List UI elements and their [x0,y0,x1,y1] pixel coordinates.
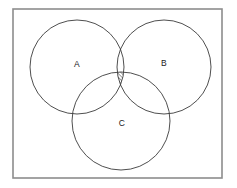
triple-intersection-shading [0,0,237,188]
venn-diagram-figure: A B C [0,0,237,188]
set-label-a: A [74,59,80,69]
venn-diagram-canvas: A B C [0,0,237,188]
set-label-b: B [161,58,167,68]
universal-set-frame [13,9,222,178]
set-label-c: C [119,118,125,128]
